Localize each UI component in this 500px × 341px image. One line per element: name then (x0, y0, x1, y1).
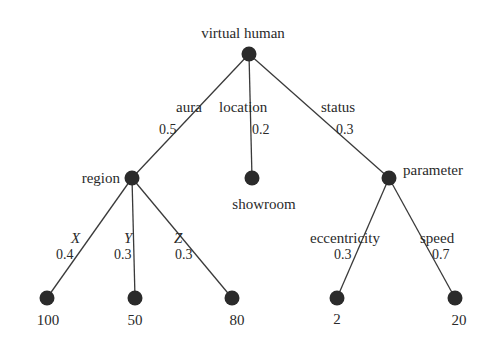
node-root (242, 47, 257, 62)
edge-y (132, 178, 135, 298)
edge-label-speed: speed (420, 230, 455, 246)
edge-label-aura: aura (176, 99, 202, 115)
node-2 (330, 291, 345, 306)
node-parameter (382, 171, 397, 186)
edge-weight-speed: 0.7 (432, 247, 450, 262)
edge-weight-status: 0.3 (336, 122, 354, 137)
edge-weight-y: 0.3 (114, 247, 132, 262)
label-80: 80 (230, 312, 245, 328)
label-showroom: showroom (232, 196, 296, 212)
edge-x (47, 178, 132, 298)
edge-aura (132, 54, 249, 178)
label-20: 20 (452, 312, 467, 328)
edge-weight-eccentricity: 0.3 (334, 247, 352, 262)
tree-diagram: virtual human region showroom parameter … (0, 0, 500, 341)
node-showroom (245, 171, 260, 186)
label-parameter: parameter (403, 162, 463, 178)
edge-label-y: Y (124, 230, 134, 246)
edge-label-x: X (70, 230, 81, 246)
node-100 (40, 291, 55, 306)
edge-weight-z: 0.3 (175, 247, 193, 262)
node-region (125, 171, 140, 186)
label-region: region (82, 170, 121, 186)
edge-weight-x: 0.4 (56, 247, 74, 262)
node-20 (448, 291, 463, 306)
edge-label-location: location (219, 99, 268, 115)
edge-status (249, 54, 389, 178)
edge-weight-location: 0.2 (252, 122, 270, 137)
edge-label-eccentricity: eccentricity (310, 230, 380, 246)
edge-label-z: Z (174, 230, 183, 246)
node-50 (128, 291, 143, 306)
edge-weight-aura: 0.5 (159, 122, 177, 137)
label-2: 2 (333, 311, 341, 327)
label-virtual-human: virtual human (201, 25, 285, 41)
node-80 (225, 291, 240, 306)
edge-label-status: status (321, 99, 355, 115)
label-100: 100 (37, 312, 60, 328)
label-50: 50 (128, 312, 143, 328)
edge-location (249, 54, 252, 178)
